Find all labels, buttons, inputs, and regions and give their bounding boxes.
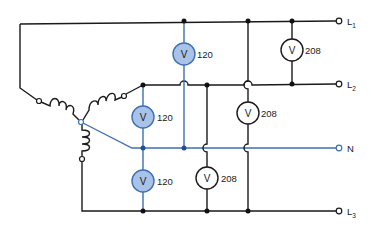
terminal-l2 — [336, 81, 342, 87]
junction-dot — [246, 19, 251, 24]
label-l3: L3 — [347, 206, 356, 219]
junction-dot — [141, 83, 146, 88]
junction-dot — [205, 83, 210, 88]
junction-dot — [182, 19, 187, 24]
junction-dot — [290, 19, 295, 24]
voltmeter-l2-n: V 120 — [132, 106, 173, 128]
svg-text:208: 208 — [221, 173, 237, 184]
svg-text:120: 120 — [157, 112, 173, 123]
coil-terminal-2 — [122, 94, 127, 99]
voltmeter-l1-n: V 120 — [173, 43, 213, 65]
coil-1-icon — [41, 99, 79, 121]
terminal-l3 — [336, 208, 342, 214]
coil-2-icon — [83, 93, 122, 120]
voltmeter-l2-l3: V 208 — [196, 167, 237, 189]
svg-text:120: 120 — [197, 49, 213, 60]
junction-dot — [141, 209, 146, 214]
l1-frame-wire — [20, 24, 37, 100]
svg-text:V: V — [204, 173, 211, 184]
wye-circuit-diagram: V 120 V 120 V 120 V 208 V 208 V 208 L1 L… — [0, 0, 371, 227]
star-point — [79, 120, 84, 125]
coil-3-icon — [82, 124, 90, 156]
svg-text:V: V — [181, 49, 188, 60]
l2-wire — [143, 81, 336, 85]
svg-text:V: V — [140, 176, 147, 187]
svg-text:V: V — [245, 108, 252, 119]
junction-dot — [205, 209, 210, 214]
junction-dot — [141, 146, 146, 151]
l2-switch-wire — [126, 85, 143, 94]
svg-text:120: 120 — [157, 176, 173, 187]
svg-text:V: V — [140, 112, 147, 123]
neutral-wire — [83, 123, 336, 148]
junction-dot — [182, 146, 187, 151]
coil-terminal-3 — [80, 157, 85, 162]
svg-text:208: 208 — [305, 45, 321, 56]
junction-dot — [290, 82, 295, 87]
svg-text:208: 208 — [261, 108, 277, 119]
label-l1: L1 — [347, 16, 356, 29]
terminal-n — [336, 145, 342, 151]
svg-text:V: V — [289, 45, 296, 56]
label-n: N — [347, 143, 354, 154]
coil-terminal-1 — [37, 99, 42, 104]
label-l2: L2 — [347, 79, 356, 92]
junction-dot — [246, 209, 251, 214]
voltmeter-l1-l3: V 208 — [237, 102, 277, 124]
terminal-l1 — [336, 18, 342, 24]
voltmeter-n-l3: V 120 — [132, 170, 173, 192]
voltmeter-l1-l2: V 208 — [281, 39, 321, 61]
l1-wire — [20, 21, 336, 24]
